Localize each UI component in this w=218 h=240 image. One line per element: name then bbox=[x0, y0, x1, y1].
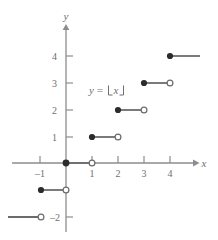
open-endpoint-2-1 bbox=[115, 134, 121, 140]
x-tick-label-4: 4 bbox=[168, 168, 173, 179]
y-tick-label-neg2: –2 bbox=[49, 212, 60, 223]
floor-bracket-left-icon bbox=[109, 86, 113, 96]
x-axis-arrow-icon bbox=[193, 160, 200, 167]
closed-endpoint-4-4 bbox=[167, 53, 173, 59]
y-tick-label-4: 4 bbox=[52, 51, 57, 62]
closed-endpoint-neg1-neg1 bbox=[38, 187, 44, 193]
y-axis-label: y bbox=[63, 10, 69, 22]
open-endpoints-group bbox=[38, 80, 173, 220]
floor-function-graph: 4 3 2 1 –2 –1 1 2 3 4 y x y = x bbox=[0, 0, 218, 240]
x-tick-label-1: 1 bbox=[90, 168, 95, 179]
closed-endpoint-3-3 bbox=[141, 80, 147, 86]
closed-endpoint-0-0 bbox=[63, 160, 70, 167]
open-endpoint-neg1-neg2 bbox=[38, 214, 44, 220]
x-axis-label: x bbox=[201, 157, 207, 169]
y-tick-label-1: 1 bbox=[52, 132, 57, 143]
equation-rhs: x bbox=[113, 84, 119, 96]
x-tick-label-neg1: –1 bbox=[34, 168, 45, 179]
floor-bracket-right-icon bbox=[120, 86, 124, 96]
open-endpoint-0-neg1 bbox=[63, 187, 69, 193]
open-endpoint-1-0 bbox=[89, 160, 95, 166]
y-tick-label-2: 2 bbox=[52, 105, 57, 116]
open-endpoint-3-2 bbox=[141, 107, 147, 113]
closed-endpoint-1-1 bbox=[89, 134, 95, 140]
equation-label: y = x bbox=[88, 84, 124, 96]
y-tick-label-3: 3 bbox=[52, 78, 57, 89]
closed-endpoint-2-2 bbox=[115, 107, 121, 113]
equation-equals: = bbox=[97, 84, 103, 96]
x-tick-label-2: 2 bbox=[116, 168, 121, 179]
closed-endpoints-group bbox=[38, 53, 173, 193]
y-axis-arrow-icon bbox=[63, 24, 70, 30]
graph-canvas: 4 3 2 1 –2 –1 1 2 3 4 y x y = x bbox=[0, 0, 218, 240]
equation-lhs: y bbox=[88, 84, 94, 96]
x-tick-label-3: 3 bbox=[142, 168, 147, 179]
open-endpoint-4-3 bbox=[167, 80, 173, 86]
axis-names-group: y x bbox=[63, 10, 207, 169]
